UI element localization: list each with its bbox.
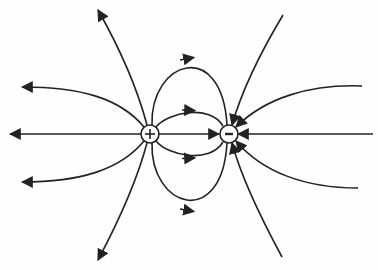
connecting-field-lines	[152, 58, 227, 212]
field-line-right-upper	[236, 86, 362, 127]
field-line-left-lower	[22, 141, 144, 182]
field-line-right-lower	[236, 141, 358, 188]
field-line-inner-upper-loop	[156, 112, 223, 127]
negative-charge	[220, 125, 238, 143]
dipole-field-diagram: Electric field lines of an electric dipo…	[0, 0, 378, 270]
field-line-left-upper	[22, 87, 144, 127]
field-line-top-right	[232, 15, 283, 125]
field-line-outer-lower-loop	[152, 143, 227, 200]
field-line-inner-lower-loop	[156, 141, 223, 156]
positive-charge	[141, 125, 159, 143]
field-lines-svg	[0, 0, 378, 270]
outgoing-field-lines	[10, 10, 147, 260]
incoming-field-lines	[232, 15, 373, 257]
field-line-outer-upper-loop	[152, 68, 227, 125]
